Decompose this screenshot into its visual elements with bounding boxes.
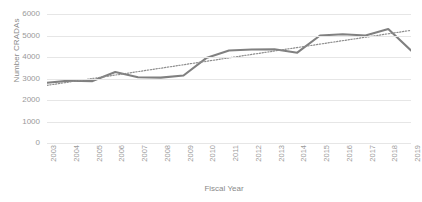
x-axis-tick-label: 2003 [50,145,58,162]
x-axis-tick-labels: 2003200420052006200720082009201020112012… [47,145,411,185]
plot-area [47,14,411,143]
y-axis-tick-label: 5000 [18,32,44,40]
x-axis-tick-label: 2006 [118,145,126,162]
x-axis-tick-label: 2010 [209,145,217,162]
gridline [47,143,411,144]
y-axis-tick-labels: 0100020003000400050006000 [18,0,44,202]
gridline [47,14,411,15]
x-axis-tick-label: 2017 [369,145,377,162]
x-axis-tick-label: 2015 [323,145,331,162]
gridline [47,122,411,123]
x-axis-tick-label: 2012 [255,145,263,162]
y-axis-tick-label: 2000 [18,96,44,104]
x-axis-tick-label: 2004 [73,145,81,162]
y-axis-tick-label: 0 [18,139,44,147]
data-series-line [47,29,411,83]
y-axis-tick-label: 3000 [18,75,44,83]
x-axis-title: Fiscal Year [0,184,418,193]
gridline [47,57,411,58]
gridline [47,79,411,80]
x-axis-tick-label: 2016 [346,145,354,162]
x-axis-tick-label: 2019 [414,145,422,162]
x-axis-tick-label: 2014 [300,145,308,162]
x-axis-tick-label: 2008 [164,145,172,162]
gridline [47,100,411,101]
gridline [47,36,411,37]
y-axis-tick-label: 4000 [18,53,44,61]
x-axis-tick-label: 2005 [96,145,104,162]
x-axis-tick-label: 2009 [187,145,195,162]
x-axis-tick-label: 2013 [278,145,286,162]
y-axis-tick-label: 1000 [18,118,44,126]
y-axis-tick-label: 6000 [18,10,44,18]
x-axis-tick-label: 2007 [141,145,149,162]
x-axis-tick-label: 2018 [391,145,399,162]
x-axis-tick-label: 2011 [232,145,240,161]
